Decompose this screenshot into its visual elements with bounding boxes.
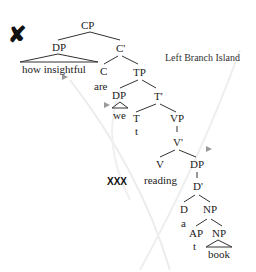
node-dp: DP [52, 42, 66, 53]
ungrammatical-mark: ✘ [8, 24, 26, 46]
node-vp: VP [170, 113, 184, 124]
node-dbar: D' [193, 181, 203, 192]
leaf-a: a [181, 218, 186, 229]
node-np: NP [203, 204, 217, 215]
leaf-are: are [94, 81, 107, 92]
leaf-we: we [113, 110, 126, 121]
node-tp: TP [133, 67, 146, 78]
trace-t: t [135, 126, 138, 137]
node-c: C [100, 66, 107, 77]
trace-ap: t [193, 241, 196, 252]
leaf-reading: reading [144, 175, 177, 186]
island-annotation: Left Branch Island [165, 52, 240, 63]
node-tbar: T' [154, 91, 163, 102]
node-np-inner: NP [212, 228, 226, 239]
node-cp: CP [81, 20, 94, 31]
node-ap: AP [189, 228, 203, 239]
node-dp-object: DP [190, 159, 204, 170]
syntax-tree-diagram: ✘ Left Branch Island XXX CP DP how insig… [0, 0, 256, 272]
node-cbar: C' [116, 43, 125, 54]
xxx-marker: XXX [107, 176, 127, 187]
node-dp-we: DP [112, 90, 126, 101]
leaf-how-insightful: how insightful [22, 64, 86, 75]
node-d: D [180, 204, 188, 215]
node-t: T [133, 113, 140, 124]
node-vbar: V' [173, 137, 183, 148]
leaf-book: book [208, 249, 230, 260]
node-v: V [156, 159, 164, 170]
